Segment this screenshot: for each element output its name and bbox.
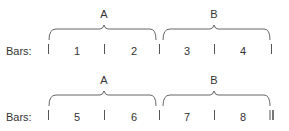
section-label-b: B <box>210 8 217 20</box>
section-label-a: A <box>100 74 107 86</box>
bar-number: 4 <box>240 45 246 57</box>
row-2: Bars: A B 5 6 7 8 <box>0 65 289 130</box>
bar-number: 1 <box>74 45 80 57</box>
bar-number: 8 <box>240 111 246 123</box>
row-1: Bars: A B 1 2 3 4 <box>0 0 289 65</box>
bar-number: 6 <box>131 111 137 123</box>
bars-label: Bars: <box>6 111 32 123</box>
bar-number: 3 <box>184 45 190 57</box>
bar-number: 2 <box>131 45 137 57</box>
bar-number: 7 <box>184 111 190 123</box>
bars-label: Bars: <box>6 45 32 57</box>
section-label-a: A <box>100 8 107 20</box>
section-label-b: B <box>210 74 217 86</box>
bar-number: 5 <box>74 111 80 123</box>
